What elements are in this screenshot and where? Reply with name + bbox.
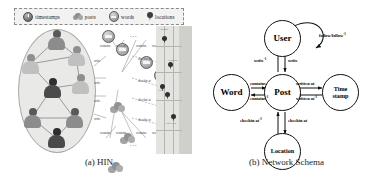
edge-label-write: write bbox=[94, 59, 100, 63]
edge-label-contains-inv: contains-1 bbox=[250, 95, 268, 101]
edge-label-checkin-at-inv: checkin at-1 bbox=[240, 117, 262, 123]
edge-label-contains: contains bbox=[136, 131, 146, 135]
map-road bbox=[156, 46, 182, 47]
word-node bbox=[102, 30, 115, 43]
edge-label-written-at: written at bbox=[296, 80, 314, 86]
panel-network-schema: User Post Word Time stamp Location follo… bbox=[192, 2, 381, 182]
caption-network-schema: (b) Network Schema bbox=[192, 157, 381, 167]
edge-label-write: write bbox=[94, 99, 100, 103]
map-pin-icon bbox=[162, 36, 167, 44]
edge-label-checkin-at: checkin at bbox=[288, 117, 307, 123]
edge-label-checkin: checkin at bbox=[138, 118, 151, 122]
legend-label-locations: locations bbox=[155, 14, 175, 20]
word-bubble-icon bbox=[109, 11, 120, 22]
legend-item-words: words bbox=[109, 11, 135, 22]
map-road bbox=[156, 130, 182, 131]
map-road bbox=[156, 72, 182, 73]
edge-label-contains: contains bbox=[116, 131, 126, 135]
hin-legend: timestamps posts words locations bbox=[14, 8, 184, 25]
map-road bbox=[156, 100, 182, 101]
figure-root: timestamps posts words locations bbox=[0, 0, 381, 182]
legend-label-posts: posts bbox=[85, 14, 96, 20]
timestamp-label-line2: stamp bbox=[332, 93, 348, 99]
edge-label-write-inv: write-1 bbox=[254, 57, 266, 63]
edge-label-checkin: checkin at bbox=[138, 98, 151, 102]
schema-node-word: Word bbox=[213, 74, 250, 111]
map-pin-icon bbox=[160, 84, 165, 92]
map-pin-icon bbox=[171, 114, 176, 122]
ellipsis-bottom: ... bbox=[130, 141, 138, 147]
map-pin-icon bbox=[147, 12, 153, 21]
edge-label-checkin: checkin at bbox=[138, 57, 151, 61]
map-pin-icon bbox=[165, 92, 170, 100]
map-label: Oak Lawn bbox=[166, 122, 176, 125]
edge-label-write: write bbox=[288, 57, 298, 63]
edge-label-write: write bbox=[94, 81, 100, 85]
edge-label-contains: contains bbox=[136, 44, 146, 48]
post-node bbox=[110, 102, 125, 113]
legend-item-timestamps: timestamps bbox=[23, 12, 60, 22]
edge-label-contains: contains bbox=[100, 131, 110, 135]
location-map: Chicago Evanston Cicero Oak Lawn bbox=[156, 26, 192, 154]
hin-body: ... contains contains contains contains … bbox=[6, 26, 192, 154]
schema-node-timestamp: Time stamp bbox=[322, 74, 359, 111]
legend-item-posts: posts bbox=[73, 13, 96, 20]
legend-label-words: words bbox=[121, 14, 134, 20]
edge-label-contains: contains bbox=[116, 44, 126, 48]
caption-hin: (a) HIN bbox=[6, 157, 192, 167]
legend-item-locations: locations bbox=[147, 12, 175, 21]
edge-label-write: write bbox=[94, 117, 100, 121]
edge-label-written-at-inv: written at-1 bbox=[296, 95, 317, 101]
cloud-icon bbox=[73, 13, 83, 20]
clock-icon bbox=[23, 12, 33, 22]
edge-label-follow: follow/follow-1 bbox=[319, 32, 346, 38]
legend-label-timestamps: timestamps bbox=[35, 14, 60, 20]
panel-hin: timestamps posts words locations bbox=[6, 2, 192, 182]
ellipsis-top: ... bbox=[130, 32, 138, 38]
edge-label-contains: contains bbox=[100, 44, 110, 48]
map-road bbox=[173, 26, 174, 154]
map-label: Chicago bbox=[160, 28, 168, 31]
edge-label-contains: contains bbox=[250, 80, 266, 86]
edge-label-checkin: checkin at bbox=[138, 79, 151, 83]
schema-node-user: User bbox=[264, 20, 301, 57]
map-pin-icon bbox=[168, 62, 173, 70]
